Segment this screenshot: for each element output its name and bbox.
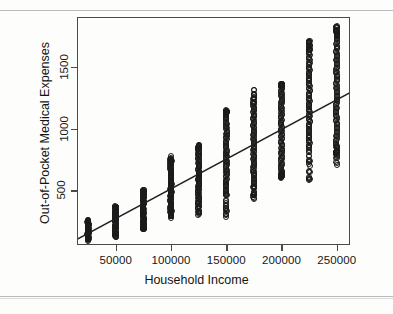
x-tick-label-200000: 200000 [262,254,301,266]
x-tick-label-250000: 250000 [317,254,356,266]
x-tick-150000 [226,245,227,251]
page-rule-bottom [0,296,393,297]
y-tick-500 [71,190,77,191]
x-tick-label-150000: 150000 [207,254,246,266]
x-axis-label: Household Income [0,273,393,287]
x-tick-label-50000: 50000 [99,254,131,266]
y-tick-label-1500: 1500 [58,54,70,80]
x-tick-50000 [116,245,117,251]
plot-frame-border [77,17,350,245]
y-axis-label: Out-of-Pocket Medical Expenses [38,18,52,248]
y-tick-1500 [71,67,77,68]
y-tick-1000 [71,129,77,130]
page-rule-top [0,10,393,11]
y-tick-label-500: 500 [55,181,67,200]
x-tick-250000 [337,245,338,251]
page-rule-bottom-secondary [0,298,393,299]
x-tick-200000 [281,245,282,251]
y-tick-label-1000: 1000 [58,116,70,142]
x-tick-100000 [171,245,172,251]
scatter-plot-figure: 50000100000150000200000250000 5001000150… [0,0,393,314]
x-tick-label-100000: 100000 [151,254,190,266]
